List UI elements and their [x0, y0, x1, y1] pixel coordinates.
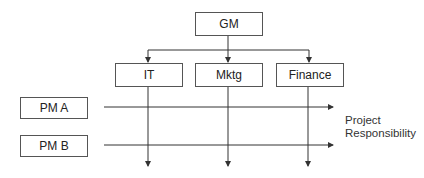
pm-a-box: PM A	[20, 97, 88, 119]
finance-label: Finance	[289, 68, 332, 82]
gm-label: GM	[219, 17, 238, 31]
gm-box: GM	[195, 12, 263, 36]
finance-box: Finance	[276, 63, 344, 87]
mktg-box: Mktg	[195, 63, 263, 87]
mktg-label: Mktg	[216, 68, 242, 82]
annotation-line-2: Responsibility	[345, 127, 416, 140]
pm-a-label: PM A	[40, 101, 69, 115]
gm-to-departments-connector	[148, 35, 309, 62]
it-box: IT	[115, 63, 183, 87]
annotation-line-1: Project	[345, 114, 416, 127]
functional-lines	[148, 87, 308, 166]
pm-b-label: PM B	[39, 139, 68, 153]
project-lines	[104, 107, 333, 145]
matrix-org-diagram: GM IT Mktg Finance PM A PM B Project Res…	[0, 0, 424, 178]
pm-b-box: PM B	[20, 135, 88, 157]
it-label: IT	[144, 68, 155, 82]
project-responsibility-annotation: Project Responsibility	[345, 114, 416, 140]
